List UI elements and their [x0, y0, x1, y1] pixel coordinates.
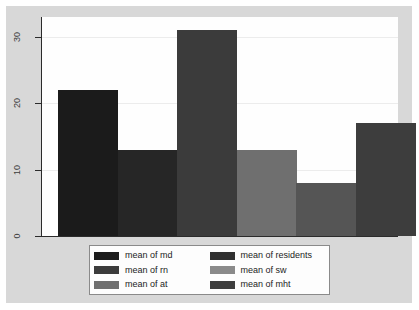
bar-sw — [296, 183, 356, 236]
y-tick-label: 30 — [0, 37, 34, 38]
legend-label: mean of at — [125, 280, 168, 289]
legend-entry: mean of md — [94, 251, 210, 260]
y-tick-label-text: 0 — [13, 233, 22, 238]
legend-label: mean of mht — [241, 280, 291, 289]
legend-swatch-icon — [94, 266, 119, 274]
bar-mht — [356, 123, 416, 236]
bar-residents — [237, 150, 297, 236]
bar-at — [177, 30, 237, 236]
bar-md — [58, 90, 118, 236]
legend-row: mean of md mean of residents — [94, 249, 325, 262]
legend-swatch-icon — [210, 252, 235, 260]
chart-legend: mean of md mean of residents mean of rn … — [89, 245, 330, 295]
y-tick-label: 0 — [0, 236, 34, 237]
legend-label: mean of sw — [241, 266, 287, 275]
legend-entry: mean of at — [94, 280, 210, 289]
y-tick-label-text: 30 — [13, 32, 22, 42]
legend-entry: mean of rn — [94, 266, 210, 275]
legend-row: mean of rn mean of sw — [94, 264, 325, 277]
y-tick-mark — [35, 236, 41, 237]
legend-swatch-icon — [210, 266, 235, 274]
bar-chart-figure: 0102030 mean of md mean of residents mea… — [0, 0, 419, 310]
y-tick-label: 10 — [0, 170, 34, 171]
bar-series — [41, 17, 398, 236]
legend-label: mean of md — [125, 251, 173, 260]
legend-swatch-icon — [210, 281, 235, 289]
legend-entry: mean of mht — [210, 280, 326, 289]
legend-entry: mean of sw — [210, 266, 326, 275]
legend-row: mean of at mean of mht — [94, 278, 325, 291]
y-tick-label-text: 20 — [13, 98, 22, 108]
legend-entry: mean of residents — [210, 251, 326, 260]
y-tick-label: 20 — [0, 103, 34, 104]
bar-rn — [118, 150, 178, 236]
legend-label: mean of residents — [241, 251, 313, 260]
legend-swatch-icon — [94, 281, 119, 289]
y-tick-label-text: 10 — [13, 165, 22, 175]
legend-swatch-icon — [94, 252, 119, 260]
x-axis-line — [41, 236, 398, 237]
legend-label: mean of rn — [125, 266, 168, 275]
